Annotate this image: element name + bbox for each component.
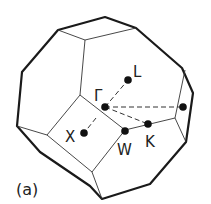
figure-caption: (a) [16,180,38,199]
face-center-point [179,103,187,111]
brillouin-zone-diagram: Γ L X W K (a) [0,0,211,204]
L-point [124,76,132,84]
K-label: K [145,133,156,151]
W-label: W [117,141,132,159]
inner-edges [17,28,186,199]
X-label: X [65,128,75,146]
K-point [144,120,152,128]
L-label: L [133,63,142,81]
gamma-label: Γ [94,87,103,105]
W-point [121,127,129,135]
X-point [80,129,88,137]
